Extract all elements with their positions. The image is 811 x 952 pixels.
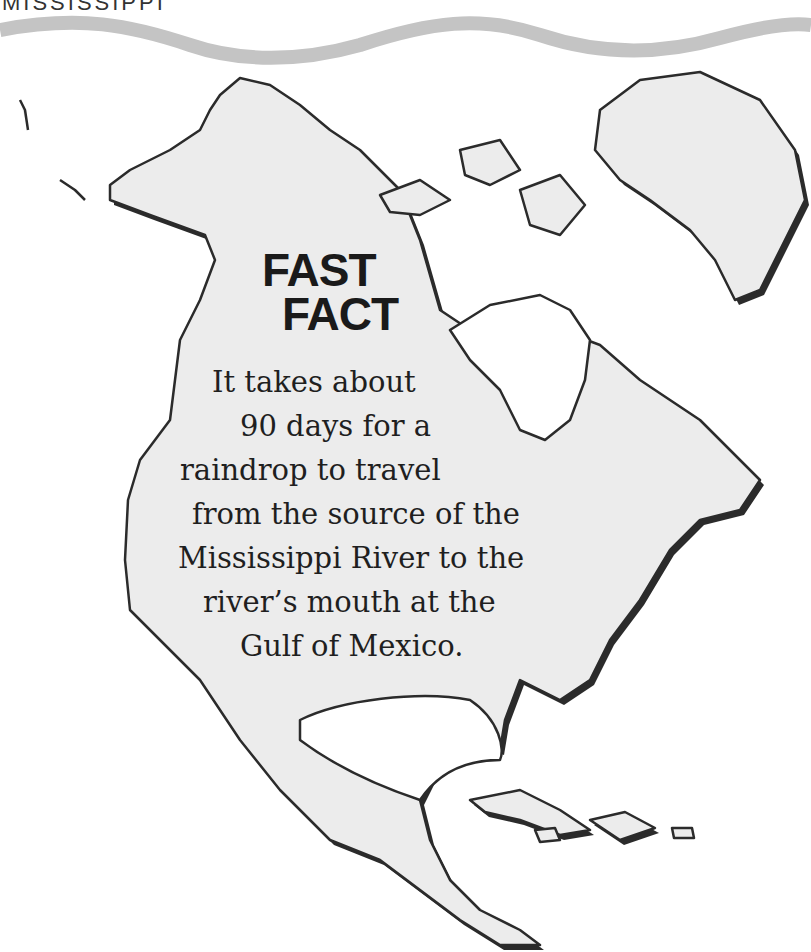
fact-line: 90 days for a (170, 404, 590, 448)
fact-line: It takes about (170, 360, 590, 404)
arctic-island-2 (460, 140, 520, 185)
arctic-island-3 (520, 175, 585, 235)
fact-line: raindrop to travel (170, 448, 590, 492)
fact-line: from the source of the (170, 492, 590, 536)
fact-line: Gulf of Mexico. (170, 624, 590, 668)
fact-line: Mississippi River to the (170, 536, 590, 580)
aleutian-islands (20, 100, 85, 200)
cuba (470, 790, 590, 835)
decorative-wave (0, 23, 811, 58)
fast-fact-body: It takes about 90 days for a raindrop to… (170, 360, 590, 668)
fact-line: river’s mouth at the (170, 580, 590, 624)
jamaica (535, 828, 560, 842)
fast-fact-title-line2: FACT (262, 292, 398, 336)
fast-fact-title-line1: FAST (262, 248, 398, 292)
fast-fact-heading: FAST FACT (262, 248, 398, 336)
puerto-rico (672, 828, 694, 838)
